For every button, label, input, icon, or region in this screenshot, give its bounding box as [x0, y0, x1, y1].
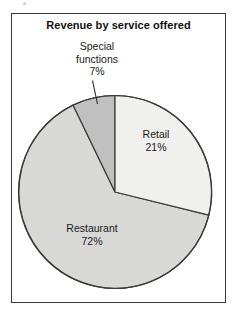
slice-label-special-functions: Special functions 7%	[48, 40, 146, 78]
slice-label-special-functions-name-line2: functions	[48, 53, 146, 66]
slice-label-restaurant-name: Restaurant	[42, 222, 142, 235]
pie-chart-figure: Revenue by service offered Retail 21% Re…	[0, 0, 237, 318]
slice-label-retail-name: Retail	[125, 128, 187, 141]
slice-label-retail: Retail 21%	[125, 128, 187, 153]
slice-label-restaurant: Restaurant 72%	[42, 222, 142, 247]
slice-label-special-functions-value: 7%	[48, 65, 146, 78]
slice-label-retail-value: 21%	[125, 141, 187, 154]
slice-label-restaurant-value: 72%	[42, 235, 142, 248]
slice-label-special-functions-name-line1: Special	[48, 40, 146, 53]
